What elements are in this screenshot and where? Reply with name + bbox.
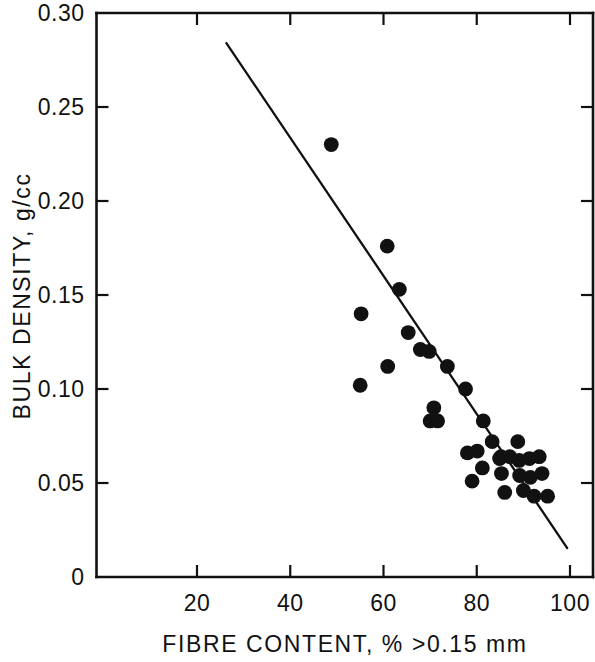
data-point	[476, 414, 491, 429]
x-axis-label: FIBRE CONTENT, % >0.15 mm	[162, 631, 527, 657]
data-point	[380, 239, 395, 254]
data-point	[540, 489, 555, 504]
scatter-points	[324, 137, 555, 503]
data-point	[465, 474, 480, 489]
data-point	[354, 306, 369, 321]
y-axis-label: BULK DENSITY, g/cc	[9, 173, 35, 420]
y-tick-label-0.25: 0.25	[38, 94, 85, 120]
x-axis-tick-labels: 20406080100	[184, 590, 590, 616]
data-point	[497, 485, 512, 500]
data-point	[422, 344, 437, 359]
data-point	[535, 466, 550, 481]
x-tick-label-60: 60	[370, 590, 397, 616]
data-point	[380, 359, 395, 374]
y-tick-label-0.10: 0.10	[38, 376, 85, 402]
data-point	[401, 325, 416, 340]
data-point	[532, 449, 547, 464]
y-tick-label-0.20: 0.20	[38, 188, 85, 214]
x-tick-label-40: 40	[277, 590, 304, 616]
data-point	[527, 489, 542, 504]
data-point	[494, 466, 509, 481]
bulk-density-vs-fibre-content-chart: 20406080100 00.050.100.150.200.250.30 FI…	[0, 0, 595, 662]
x-tick-label-80: 80	[463, 590, 490, 616]
data-point	[475, 461, 490, 476]
y-tick-label-0.05: 0.05	[38, 470, 85, 496]
chart-svg: 20406080100 00.050.100.150.200.250.30 FI…	[0, 0, 595, 662]
x-tick-label-20: 20	[184, 590, 211, 616]
y-tick-label-0: 0	[71, 564, 84, 590]
data-point	[440, 359, 455, 374]
data-point	[458, 382, 473, 397]
data-point	[485, 434, 500, 449]
data-point	[353, 378, 368, 393]
data-point	[470, 444, 485, 459]
data-point	[324, 137, 339, 152]
y-axis-tick-labels: 00.050.100.150.200.250.30	[38, 0, 85, 590]
x-tick-label-100: 100	[550, 590, 590, 616]
data-point	[430, 414, 445, 429]
data-point	[510, 434, 525, 449]
data-point	[392, 282, 407, 297]
data-point	[426, 400, 441, 415]
y-tick-label-0.30: 0.30	[38, 0, 85, 26]
y-tick-label-0.15: 0.15	[38, 282, 85, 308]
